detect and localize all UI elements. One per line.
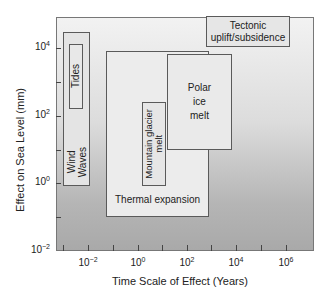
tectonic-label: Tectonicuplift/subsidence (211, 20, 286, 44)
x-tick (236, 245, 237, 251)
x-tick (187, 245, 188, 251)
mountain-glacier-melt-label: Mountain glaciermelt (144, 109, 164, 179)
x-tick-label: 100 (118, 257, 158, 268)
y-tick (56, 48, 61, 49)
x-tick-label: 104 (216, 257, 256, 268)
box-tectonic: Tectonicuplift/subsidence (206, 16, 290, 47)
x-axis-title: Time Scale of Effect (Years) (112, 275, 248, 287)
x-tick-minor (211, 245, 212, 251)
box-tides: Tides (69, 44, 83, 109)
x-tick-minor (162, 245, 163, 251)
polar-ice-melt-label: Polaricemelt (188, 81, 211, 123)
x-tick (88, 245, 89, 251)
x-tick (138, 245, 139, 251)
x-tick-label: 106 (266, 257, 306, 268)
box-polar-ice-melt: Polaricemelt (167, 54, 232, 150)
y-tick-minor (56, 217, 61, 218)
x-tick (286, 245, 287, 251)
y-tick (56, 183, 61, 184)
x-tick-minor (261, 245, 262, 251)
y-tick-label: 10−2 (20, 244, 50, 255)
x-tick-minor (113, 245, 114, 251)
y-tick-minor (56, 82, 61, 83)
thermal-expansion-label: Thermal expansion (115, 194, 200, 206)
tides-label: Tides (70, 64, 82, 88)
y-tick (56, 116, 61, 117)
y-tick-minor (56, 150, 61, 151)
x-tick-minor (63, 245, 64, 251)
y-tick-label: 104 (20, 41, 50, 52)
y-axis-title: Effect on Sea Level (mm) (14, 88, 26, 212)
x-tick-label: 102 (167, 257, 207, 268)
x-tick-label: 10−2 (68, 257, 108, 268)
wind-waves-label: WindWaves (66, 147, 88, 177)
box-mountain-glacier-melt: Mountain glaciermelt (142, 102, 166, 186)
